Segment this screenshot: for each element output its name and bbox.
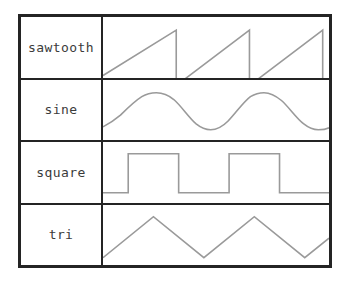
waveform-table: sawtooth sine square tri	[18, 14, 332, 268]
waveform-plot-cell	[103, 205, 329, 266]
sawtooth-waveform-graphic	[103, 17, 329, 78]
square-waveform-graphic	[103, 142, 329, 203]
sine-waveform-path	[103, 92, 329, 129]
table-row: sine	[21, 80, 329, 143]
sawtooth-waveform-path	[103, 30, 329, 77]
waveform-plot-cell	[103, 142, 329, 203]
sine-waveform-graphic	[103, 80, 329, 141]
waveform-label-cell: tri	[21, 205, 103, 266]
table-row: tri	[21, 205, 329, 266]
waveform-label: square	[36, 166, 85, 179]
square-waveform-path	[103, 154, 329, 193]
table-row: square	[21, 142, 329, 205]
waveform-label: tri	[49, 228, 74, 241]
triangle-waveform-graphic	[103, 205, 329, 266]
triangle-waveform-path	[103, 216, 329, 257]
waveform-plot-cell	[103, 80, 329, 141]
waveform-label-cell: sawtooth	[21, 17, 103, 78]
waveform-plot-cell	[103, 17, 329, 78]
table-row: sawtooth	[21, 17, 329, 80]
waveform-label-cell: square	[21, 142, 103, 203]
waveform-label: sawtooth	[28, 41, 94, 54]
waveform-label: sine	[45, 103, 78, 116]
waveform-label-cell: sine	[21, 80, 103, 141]
